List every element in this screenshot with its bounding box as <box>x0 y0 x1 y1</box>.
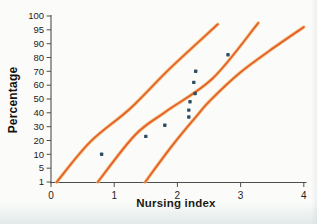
data-point <box>187 115 190 118</box>
y-tick-label: 80 <box>33 52 44 63</box>
y-tick-label: 10 <box>33 149 44 160</box>
x-tick-label: 1 <box>111 190 117 201</box>
y-tick-label: 95 <box>33 24 44 35</box>
x-tick-label: 3 <box>238 190 244 201</box>
y-tick-label: 1 <box>39 176 44 187</box>
y-tick-label: 20 <box>33 135 44 146</box>
data-point <box>226 53 229 56</box>
lower-confidence-band <box>57 24 218 182</box>
data-point <box>193 92 196 95</box>
y-tick-label: 50 <box>33 93 44 104</box>
y-tick-label: 40 <box>33 107 44 118</box>
y-tick-label: 70 <box>33 66 44 77</box>
data-point <box>100 153 103 156</box>
data-point <box>188 100 191 103</box>
upper-confidence-band <box>145 27 304 182</box>
y-axis-title: Percentage <box>6 67 20 134</box>
y-tick-label: 100 <box>28 10 44 21</box>
y-axis: 1510203040506070809095100 <box>28 10 51 187</box>
y-tick-label: 30 <box>33 121 44 132</box>
data-point <box>187 108 190 111</box>
y-tick-label: 5 <box>39 162 44 173</box>
data-point <box>144 135 147 138</box>
data-point <box>192 81 195 84</box>
probability-plot-figure: 151020304050607080909510001234 Percentag… <box>0 0 317 224</box>
x-axis-title: Nursing index <box>136 197 215 209</box>
data-points <box>100 53 230 156</box>
x-tick-label: 4 <box>301 190 307 201</box>
data-point <box>163 124 166 127</box>
data-point <box>194 70 197 73</box>
y-tick-label: 60 <box>33 79 44 90</box>
y-tick-label: 90 <box>33 38 44 49</box>
x-tick-label: 0 <box>48 190 54 201</box>
fitted-line <box>98 23 258 182</box>
plot-canvas: 151020304050607080909510001234 <box>0 0 317 224</box>
axes <box>51 16 307 183</box>
